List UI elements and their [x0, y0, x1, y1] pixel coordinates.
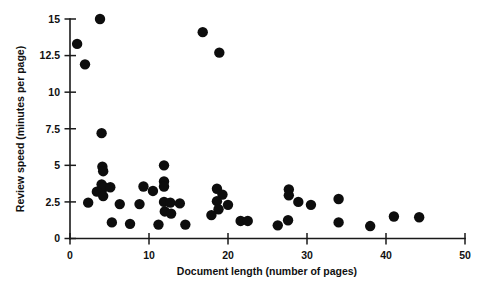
data-point	[223, 200, 233, 210]
data-point	[365, 221, 375, 231]
data-point	[134, 199, 144, 209]
data-point	[214, 47, 224, 57]
data-point	[414, 212, 424, 222]
data-point	[148, 186, 158, 196]
y-tick-label-1: 2.5	[45, 196, 60, 208]
data-point	[283, 215, 293, 225]
data-point	[333, 194, 343, 204]
x-tick-label-2: 20	[222, 249, 234, 261]
x-tick-label-5: 50	[459, 249, 471, 261]
plot-area: 02.557.51012.515 01020304050 Document le…	[0, 0, 495, 296]
data-point	[98, 191, 108, 201]
data-point	[98, 166, 108, 176]
x-tick-label-3: 30	[301, 249, 313, 261]
y-tick-label-5: 12.5	[40, 49, 61, 61]
data-points-group	[72, 14, 424, 231]
y-tick-label-2: 5	[54, 159, 60, 171]
data-point	[159, 160, 169, 170]
data-point	[206, 210, 216, 220]
data-point	[80, 59, 90, 69]
y-axis-title: Review speed (minutes per page)	[14, 46, 26, 212]
data-point	[72, 39, 82, 49]
x-ticks-group: 01020304050	[67, 233, 471, 261]
axes-group	[70, 19, 465, 239]
x-tick-label-0: 0	[67, 249, 73, 261]
data-point	[159, 181, 169, 191]
data-point	[180, 219, 190, 229]
data-point	[306, 200, 316, 210]
data-point	[243, 216, 253, 226]
data-point	[198, 27, 208, 37]
data-point	[165, 197, 175, 207]
x-tick-label-4: 40	[380, 249, 392, 261]
data-point	[333, 217, 343, 227]
x-axis-title: Document length (number of pages)	[177, 265, 357, 277]
x-tick-label-1: 10	[143, 249, 155, 261]
scatter-chart: 02.557.51012.515 01020304050 Document le…	[0, 0, 495, 296]
data-point	[115, 199, 125, 209]
y-tick-label-4: 10	[48, 86, 60, 98]
data-point	[83, 197, 93, 207]
data-point	[105, 182, 115, 192]
data-point	[273, 220, 283, 230]
y-tick-label-3: 7.5	[45, 123, 60, 135]
y-tick-label-6: 15	[48, 13, 60, 25]
data-point	[107, 217, 117, 227]
data-point	[175, 198, 185, 208]
data-point	[166, 208, 176, 218]
data-point	[95, 14, 105, 24]
y-tick-label-0: 0	[54, 232, 60, 244]
data-point	[138, 181, 148, 191]
data-point	[125, 219, 135, 229]
data-point	[293, 197, 303, 207]
data-point	[389, 211, 399, 221]
data-point	[153, 219, 163, 229]
data-point	[96, 128, 106, 138]
data-point	[284, 190, 294, 200]
